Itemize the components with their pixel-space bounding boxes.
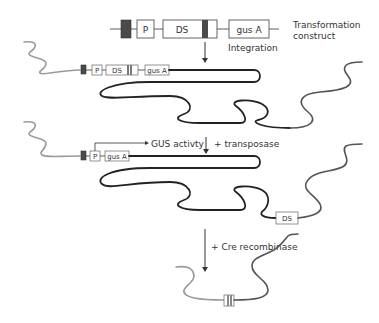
stage1-left-marker: [81, 65, 86, 74]
construct-gusa-label: gus A: [236, 25, 262, 35]
stage1-gusa-label: gus A: [147, 67, 167, 75]
excised-ds-label: DS: [282, 215, 292, 223]
stage1-left-flank: [24, 42, 80, 74]
stage3-chromosome: + Cre recombinase: [176, 229, 298, 306]
cre-recombinase-label: + Cre recombinase: [211, 242, 298, 252]
transformation-construct: P DS gus A Transformation construct Inte…: [110, 20, 361, 63]
stage2-chromosome-body: [100, 156, 276, 218]
stage2-promoter-label: P: [93, 153, 97, 161]
stage3-left-flank: [176, 267, 224, 300]
stage2-left-marker: [81, 151, 86, 160]
stage1-ds-box: [106, 65, 138, 75]
stage1-ds-label: DS: [112, 67, 122, 75]
stage2-right-flank: [298, 144, 362, 218]
stage1-chromosome-body: [100, 70, 290, 128]
stage1-chromosome: P DS gus A: [24, 42, 362, 128]
construct-promoter-label: P: [143, 25, 149, 35]
construct-left-marker: [121, 20, 131, 38]
integration-label: Integration: [228, 43, 278, 53]
cre-arrowhead: [202, 267, 208, 272]
integration-arrowhead: [202, 58, 208, 63]
stage1-right-flank: [290, 62, 362, 128]
transposase-arrowhead: [203, 149, 209, 154]
stage1-promoter-label: P: [95, 67, 99, 75]
construct-ds-label: DS: [176, 25, 189, 35]
gus-activity-connector: [95, 143, 145, 151]
construct-ds-end-marker: [202, 20, 208, 38]
construct-title-line1: Transformation: [292, 20, 361, 30]
transposase-label: + transposase: [214, 139, 280, 149]
construct-title-line2: construct: [293, 31, 336, 41]
stage2-left-flank: [24, 122, 80, 157]
gus-activity-label: GUS activty: [151, 139, 204, 149]
diagram-canvas: P DS gus A Transformation construct Inte…: [0, 0, 379, 323]
construct-ds-box: [163, 20, 217, 38]
gus-activity-arrowhead: [145, 141, 149, 145]
stage2-chromosome: P gus A GUS activty + transposase DS: [24, 122, 362, 224]
stage2-gusa-label: gus A: [107, 153, 127, 161]
